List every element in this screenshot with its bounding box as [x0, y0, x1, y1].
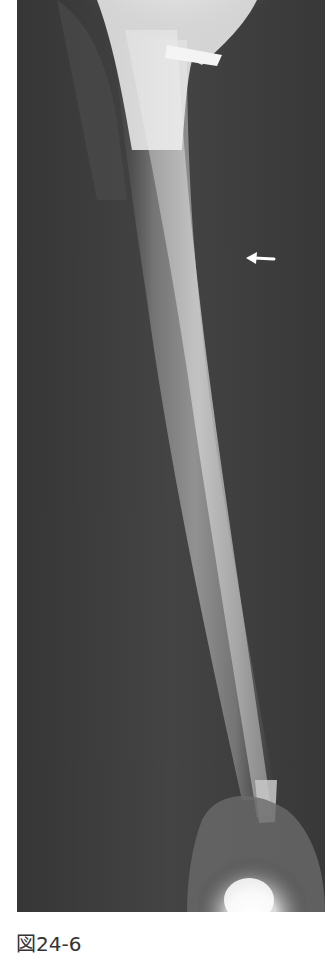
- xray-image: [17, 0, 325, 912]
- xray-illustration: [17, 0, 325, 912]
- figure-caption: 図24-6: [16, 928, 81, 957]
